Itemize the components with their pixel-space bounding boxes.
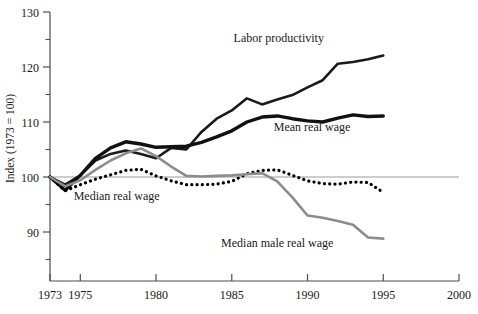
series-label-2: Median real wage — [74, 189, 160, 203]
x-tick-label: 1975 — [68, 288, 92, 302]
y-tick-label: 100 — [21, 171, 39, 185]
y-tick-label: 90 — [27, 226, 39, 240]
y-tick-label: 130 — [21, 6, 39, 20]
series-label-3: Median male real wage — [221, 236, 333, 250]
y-axis-title-text: Index (1973 = 100) — [4, 94, 17, 183]
chart-figure: 90100110120130 1973197519801985199019952… — [0, 0, 478, 314]
x-tick-label: 1980 — [144, 288, 168, 302]
x-tick-label: 1990 — [296, 288, 320, 302]
x-tick-label: 2000 — [447, 288, 471, 302]
series-label-1: Mean real wage — [274, 120, 351, 134]
series-label-0: Labor productivity — [234, 31, 324, 45]
y-axis-title: Index (1973 = 100) — [4, 94, 17, 183]
x-tick-label: 1973 — [38, 288, 62, 302]
line-chart-canvas: 90100110120130 1973197519801985199019952… — [0, 0, 478, 314]
x-tick-label: 1985 — [220, 288, 244, 302]
x-tick-label: 1995 — [371, 288, 395, 302]
chart-background — [0, 0, 478, 314]
y-tick-label: 110 — [21, 116, 39, 130]
y-tick-label: 120 — [21, 61, 39, 75]
